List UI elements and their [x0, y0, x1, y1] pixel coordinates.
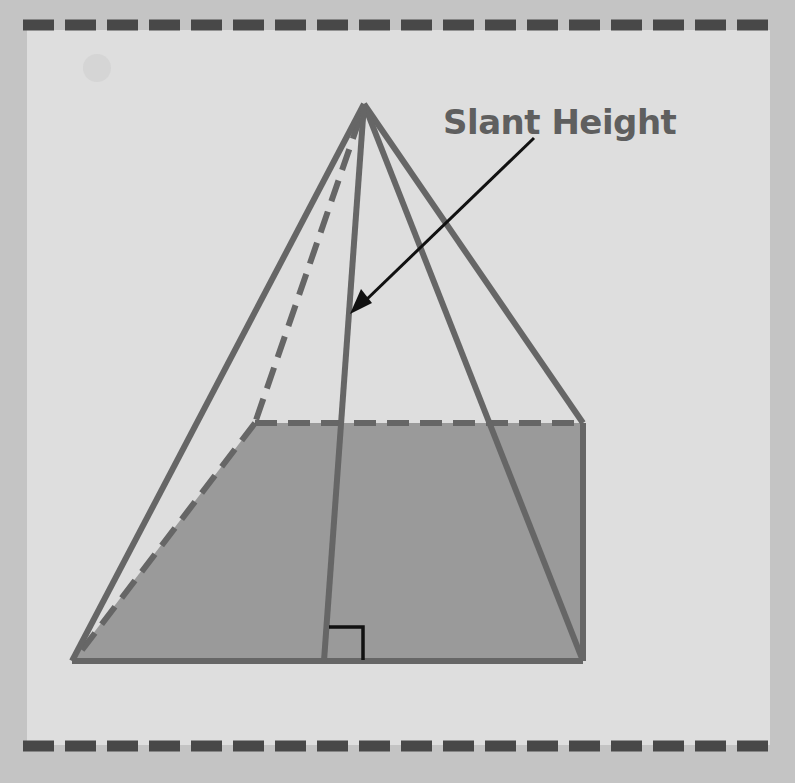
slant-height-label: Slant Height [443, 102, 676, 142]
decorative-smudge [83, 54, 111, 82]
